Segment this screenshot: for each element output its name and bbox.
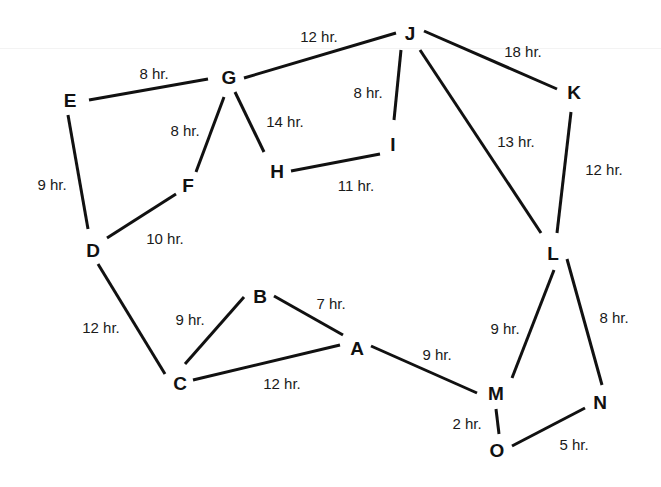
- edge-l-n: [567, 259, 602, 385]
- edge-h-i: [291, 154, 380, 171]
- edge-weight-c-a: 12 hr.: [263, 375, 301, 392]
- edge-weight-d-c: 12 hr.: [82, 319, 120, 336]
- edge-e-g: [89, 79, 208, 100]
- edge-weight-b-a: 7 hr.: [316, 295, 345, 312]
- edge-j-k: [424, 31, 557, 89]
- edge-weight-e-d: 9 hr.: [37, 176, 66, 193]
- edge-e-d: [68, 115, 88, 229]
- edge-weight-m-o: 2 hr.: [452, 415, 481, 432]
- edge-weight-l-m: 9 hr.: [490, 320, 519, 337]
- edge-weight-j-k: 18 hr.: [504, 43, 542, 60]
- edge-j-i: [394, 50, 401, 120]
- node-h: H: [270, 161, 284, 182]
- edge-weight-n-o: 5 hr.: [559, 436, 588, 453]
- edge-weight-c-b: 9 hr.: [175, 311, 204, 328]
- node-d: D: [86, 240, 100, 261]
- edge-weight-f-d: 10 hr.: [146, 230, 184, 247]
- node-b: B: [253, 286, 267, 307]
- edge-weight-e-g: 8 hr.: [139, 65, 168, 82]
- node-n: N: [593, 392, 607, 413]
- node-k: K: [567, 82, 581, 103]
- edge-weight-l-n: 8 hr.: [599, 309, 628, 326]
- node-o: O: [490, 440, 505, 461]
- edge-g-h: [235, 92, 264, 152]
- edge-m-o: [496, 409, 499, 434]
- edge-weight-a-m: 9 hr.: [422, 346, 451, 363]
- node-m: M: [488, 383, 504, 404]
- node-e: E: [64, 90, 77, 111]
- edge-weight-g-h: 14 hr.: [266, 113, 304, 130]
- edge-labels-group: 8 hr.12 hr.18 hr.8 hr.13 hr.12 hr.8 hr.1…: [37, 28, 628, 453]
- node-f: F: [182, 175, 194, 196]
- edge-g-f: [196, 97, 224, 172]
- graph-diagram: 8 hr.12 hr.18 hr.8 hr.13 hr.12 hr.8 hr.1…: [0, 0, 661, 487]
- node-c: C: [173, 373, 187, 394]
- edge-weight-g-j: 12 hr.: [300, 28, 338, 45]
- nodes-group: ABCDEFGHIJKLMNO: [64, 23, 607, 461]
- edge-weight-j-i: 8 hr.: [353, 84, 382, 101]
- node-g: G: [222, 67, 237, 88]
- edge-weight-k-l: 12 hr.: [585, 161, 623, 178]
- node-j: J: [405, 23, 416, 44]
- edge-k-l: [557, 112, 571, 233]
- node-i: I: [390, 134, 395, 155]
- node-a: A: [350, 338, 364, 359]
- edge-c-b: [185, 297, 244, 364]
- edge-weight-j-l: 13 hr.: [497, 133, 535, 150]
- node-l: L: [547, 243, 559, 264]
- edge-weight-g-f: 8 hr.: [170, 122, 199, 139]
- edge-weight-h-i: 11 hr.: [338, 177, 374, 194]
